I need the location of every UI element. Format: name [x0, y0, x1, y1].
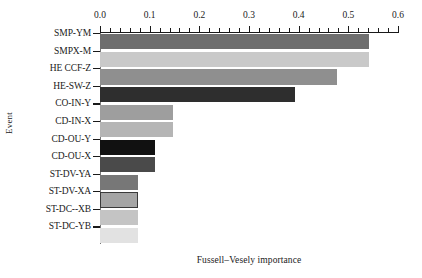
x-axis-tick-minor — [189, 28, 190, 33]
bar — [100, 122, 173, 137]
x-axis-tick-label: 0.6 — [392, 10, 404, 20]
x-axis-tick-minor — [130, 28, 131, 33]
bar — [100, 105, 173, 120]
y-axis-tick — [93, 139, 100, 140]
y-axis-tick — [93, 68, 100, 69]
x-axis-tick-label: 0.4 — [293, 10, 305, 20]
x-axis-tick-minor — [209, 28, 210, 33]
category-label: ST-DV-YA — [3, 169, 91, 179]
bar — [100, 140, 155, 155]
bar — [100, 69, 337, 84]
y-axis-tick — [93, 209, 100, 210]
x-axis-tick-minor — [319, 28, 320, 33]
bar — [100, 175, 138, 190]
x-axis-tick-minor — [279, 28, 280, 33]
bar — [100, 52, 369, 67]
x-axis-tick-minor — [358, 28, 359, 33]
y-axis-tick — [93, 103, 100, 104]
x-axis-tick-label: 0.5 — [342, 10, 354, 20]
plot-area — [100, 33, 398, 244]
x-axis-tick-minor — [269, 28, 270, 33]
x-axis-tick-label: 0.1 — [144, 10, 156, 20]
category-label: ST-DV-XA — [3, 186, 91, 196]
y-axis-tick — [93, 33, 100, 34]
x-axis-tick-minor — [219, 28, 220, 33]
x-axis-tick-minor — [110, 28, 111, 33]
y-axis-tick — [93, 121, 100, 122]
x-axis-tick-label: 0.3 — [243, 10, 255, 20]
bar — [100, 192, 138, 207]
category-label: ST-DC--XB — [3, 204, 91, 214]
x-axis-tick-minor — [160, 28, 161, 33]
x-axis-tick-minor — [179, 28, 180, 33]
x-axis-title: Fussell–Vesely importance — [100, 255, 398, 265]
x-axis-tick-major — [348, 26, 349, 33]
y-axis-tick — [93, 156, 100, 157]
category-label: CO-IN-Y — [3, 98, 91, 108]
category-label: CD-OU-Y — [3, 134, 91, 144]
y-axis-tick — [93, 86, 100, 87]
x-axis-tick-minor — [338, 28, 339, 33]
x-axis-tick-minor — [368, 28, 369, 33]
x-axis-tick-major — [100, 26, 101, 33]
x-axis-tick-minor — [328, 28, 329, 33]
category-label: HE CCF-Z — [3, 63, 91, 73]
x-axis-tick-major — [150, 26, 151, 33]
x-axis-tick-minor — [259, 28, 260, 33]
category-label: HE-SW-Z — [3, 81, 91, 91]
x-axis-tick-minor — [289, 28, 290, 33]
x-axis-tick-label: 0.2 — [193, 10, 205, 20]
x-axis-tick-major — [299, 26, 300, 33]
x-axis-tick-label: 0.0 — [94, 10, 106, 20]
category-label: CD-IN-X — [3, 116, 91, 126]
x-axis-tick-major — [249, 26, 250, 33]
category-label: CD-OU-X — [3, 151, 91, 161]
bar — [100, 157, 155, 172]
x-axis-tick-minor — [378, 28, 379, 33]
fussell-vesely-bar-chart: Event SMP-YMSMPX-MHE CCF-ZHE-SW-ZCO-IN-Y… — [0, 0, 422, 278]
x-axis-tick-minor — [170, 28, 171, 33]
bar — [100, 210, 138, 225]
x-axis-tick-major — [398, 26, 399, 33]
x-axis-tick-minor — [140, 28, 141, 33]
x-axis-tick-minor — [309, 28, 310, 33]
x-axis-tick-minor — [229, 28, 230, 33]
x-axis-tick-minor — [239, 28, 240, 33]
category-label: SMPX-M — [3, 46, 91, 56]
category-label: SMP-YM — [3, 28, 91, 38]
category-label-column: SMP-YMSMPX-MHE CCF-ZHE-SW-ZCO-IN-YCD-IN-… — [0, 0, 91, 278]
y-axis-tick — [93, 226, 100, 227]
y-axis-tick — [93, 191, 100, 192]
bar — [100, 228, 138, 243]
bar — [100, 87, 295, 102]
y-axis-tick — [93, 174, 100, 175]
category-label: ST-DC-YB — [3, 221, 91, 231]
x-axis-tick-minor — [388, 28, 389, 33]
x-axis-tick-minor — [120, 28, 121, 33]
bar — [100, 34, 369, 49]
x-axis-tick-major — [199, 26, 200, 33]
y-axis-tick — [93, 51, 100, 52]
